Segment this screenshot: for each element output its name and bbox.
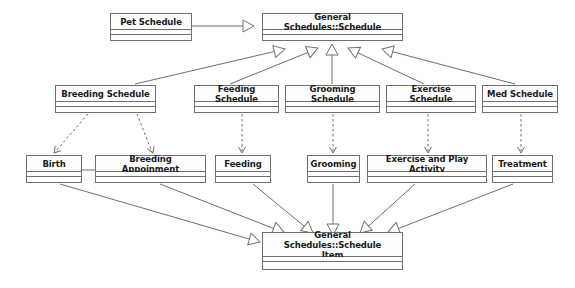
- uml-operations-compartment: [216, 177, 270, 182]
- uml-class-name: Feeding: [216, 156, 270, 172]
- node-layer: Pet ScheduleGeneral Schedules::ScheduleB…: [0, 0, 575, 288]
- uml-class-diagram: Pet ScheduleGeneral Schedules::ScheduleB…: [0, 0, 575, 288]
- uml-class-name: Exercise Schedule: [387, 86, 475, 102]
- uml-operations-compartment: [56, 107, 155, 112]
- uml-operations-compartment: [483, 107, 557, 112]
- uml-class-breeding-schedule[interactable]: Breeding Schedule: [55, 85, 156, 113]
- uml-operations-compartment: [27, 177, 81, 182]
- uml-class-breeding-appoinment[interactable]: Breeding Appoinment: [95, 155, 206, 183]
- uml-class-name: Feeding Schedule: [195, 86, 278, 102]
- uml-class-name: Treatment: [493, 156, 552, 172]
- uml-class-schedule-item[interactable]: General Schedules::Schedule Item: [262, 232, 403, 270]
- uml-class-name: Breeding Appoinment: [96, 156, 205, 172]
- uml-class-exercise-play[interactable]: Exercise and Play Activity: [367, 155, 487, 183]
- uml-class-exercise-schedule[interactable]: Exercise Schedule: [386, 85, 476, 113]
- uml-class-birth[interactable]: Birth: [26, 155, 82, 183]
- uml-operations-compartment: [263, 35, 402, 40]
- uml-class-grooming[interactable]: Grooming: [307, 155, 360, 183]
- uml-class-feeding-schedule[interactable]: Feeding Schedule: [194, 85, 279, 113]
- uml-class-med-schedule[interactable]: Med Schedule: [482, 85, 558, 113]
- uml-operations-compartment: [368, 177, 486, 182]
- uml-class-name: General Schedules::Schedule Item: [263, 233, 402, 257]
- uml-class-name: Breeding Schedule: [56, 86, 155, 102]
- uml-operations-compartment: [111, 35, 191, 40]
- uml-operations-compartment: [195, 107, 278, 112]
- uml-operations-compartment: [493, 177, 552, 182]
- uml-class-name: Grooming Schedule: [286, 86, 379, 102]
- uml-operations-compartment: [286, 107, 379, 112]
- uml-class-name: Pet Schedule: [111, 14, 191, 30]
- uml-class-pet-schedule[interactable]: Pet Schedule: [110, 13, 192, 41]
- uml-operations-compartment: [387, 107, 475, 112]
- uml-class-name: Grooming: [308, 156, 359, 172]
- uml-class-name: Exercise and Play Activity: [368, 156, 486, 172]
- uml-class-grooming-schedule[interactable]: Grooming Schedule: [285, 85, 380, 113]
- uml-class-treatment[interactable]: Treatment: [492, 155, 553, 183]
- uml-class-name: Birth: [27, 156, 81, 172]
- uml-class-feeding[interactable]: Feeding: [215, 155, 271, 183]
- uml-class-name: General Schedules::Schedule: [263, 14, 402, 30]
- uml-class-name: Med Schedule: [483, 86, 557, 102]
- uml-operations-compartment: [263, 262, 402, 269]
- uml-operations-compartment: [308, 177, 359, 182]
- uml-class-general-schedule[interactable]: General Schedules::Schedule: [262, 13, 403, 41]
- uml-operations-compartment: [96, 177, 205, 182]
